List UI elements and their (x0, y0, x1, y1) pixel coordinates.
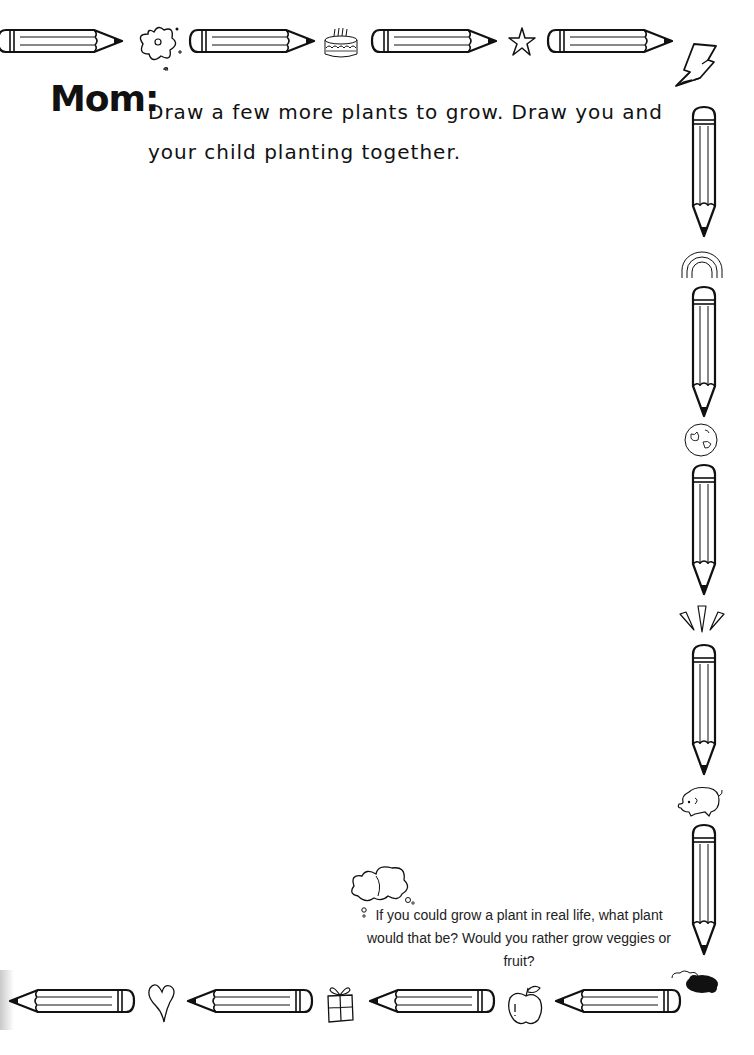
bottom-pencil-1 (4, 986, 138, 1016)
bottom-pencil-3 (364, 986, 498, 1016)
bottom-pencil-2 (182, 986, 316, 1016)
pencil-icon (364, 986, 498, 1016)
right-pencil-2 (689, 284, 719, 420)
flower-icon (134, 22, 184, 78)
apple-icon (506, 984, 546, 1026)
drawing-area[interactable] (20, 180, 670, 860)
right-pencil-5 (689, 822, 719, 958)
pencil-icon (689, 822, 719, 958)
globe-icon (683, 422, 719, 458)
pencil-icon (550, 986, 684, 1016)
rainbow-icon (680, 250, 724, 280)
top-pencil-4 (544, 26, 678, 56)
sparkle-burst-icon (678, 604, 726, 634)
gift-box-icon (324, 982, 356, 1024)
lightning-bolt-icon (672, 42, 722, 90)
pencil-icon (689, 104, 719, 240)
pencil-icon (0, 26, 128, 56)
elephant-icon (675, 784, 725, 818)
heart-icon (146, 982, 178, 1026)
top-pencil-3 (368, 26, 502, 56)
pencil-icon (368, 26, 502, 56)
pencil-icon (4, 986, 138, 1016)
right-pencil-3 (689, 462, 719, 598)
top-pencil-2 (186, 26, 320, 56)
pencil-icon (689, 462, 719, 598)
pencil-icon (689, 642, 719, 778)
heading-label: Mom: (50, 78, 158, 119)
pencil-icon (186, 26, 320, 56)
pencil-icon (689, 284, 719, 420)
top-pencil-1 (0, 26, 128, 56)
birthday-cake-icon (322, 24, 360, 62)
right-pencil-1 (689, 104, 719, 240)
drawing-prompt: Draw a few more plants to grow. Draw you… (148, 92, 688, 172)
reflection-question: If you could grow a plant in real life, … (364, 904, 674, 973)
star-icon (507, 26, 537, 58)
bottom-pencil-4 (550, 986, 684, 1016)
pencil-icon (182, 986, 316, 1016)
pencil-icon (544, 26, 678, 56)
right-pencil-4 (689, 642, 719, 778)
